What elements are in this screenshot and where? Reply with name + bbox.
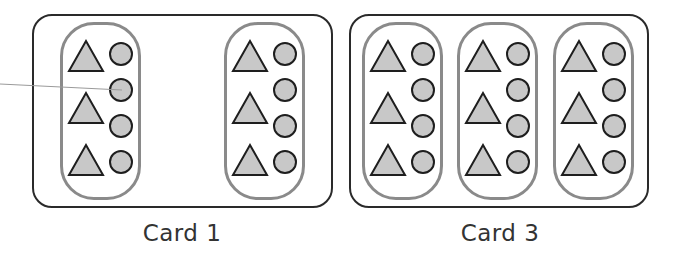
triangle-shape [371,145,405,175]
card-3-label: Card 3 [420,220,580,246]
pointer-line [0,84,122,90]
circle-shape [507,115,529,137]
triangle-shape [466,145,500,175]
circle-shape [603,115,625,137]
circle-shape [507,151,529,173]
triangle-shape [562,41,596,71]
card-1-label: Card 1 [102,220,262,246]
circle-shape [603,151,625,173]
triangle-shape [233,145,267,175]
circle-shape [603,79,625,101]
triangle-shape [466,93,500,123]
circle-shape [412,115,434,137]
circle-shape [412,79,434,101]
circle-shape [412,43,434,65]
circle-shape [110,115,132,137]
circle-shape [412,151,434,173]
circle-shape [274,115,296,137]
circle-shape [507,79,529,101]
triangle-shape [69,41,103,71]
circle-shape [507,43,529,65]
triangle-shape [233,93,267,123]
circle-shape [603,43,625,65]
triangle-shape [562,145,596,175]
triangle-shape [233,41,267,71]
triangle-shape [69,93,103,123]
triangle-shape [69,145,103,175]
triangle-shape [562,93,596,123]
triangle-shape [371,93,405,123]
triangle-shape [466,41,500,71]
circle-shape [274,79,296,101]
circle-shape [274,43,296,65]
shapes-layer [0,0,675,256]
circle-shape [110,43,132,65]
triangle-shape [371,41,405,71]
circle-shape [274,151,296,173]
circle-shape [110,151,132,173]
